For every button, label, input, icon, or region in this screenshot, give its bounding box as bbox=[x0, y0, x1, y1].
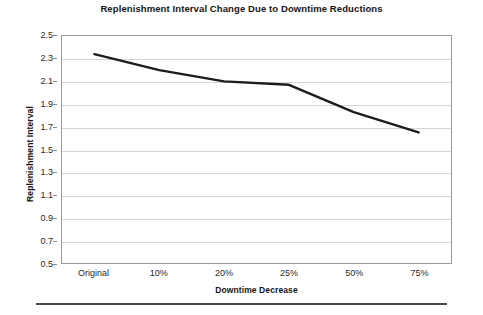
chart-figure: Replenishment Interval Change Due to Dow… bbox=[0, 0, 483, 315]
y-tick-label: 1.9 bbox=[0, 99, 57, 109]
x-tick-label: 50% bbox=[345, 268, 363, 278]
y-tick-label: 1.1 bbox=[0, 190, 57, 200]
series-polyline bbox=[94, 54, 418, 132]
plot-area bbox=[61, 35, 452, 264]
y-tick-mark bbox=[53, 104, 57, 105]
y-tick-mark bbox=[53, 218, 57, 219]
y-tick-label: 1.7 bbox=[0, 122, 57, 132]
y-tick-label: 0.7 bbox=[0, 236, 57, 246]
y-tick-mark bbox=[53, 241, 57, 242]
footer-rule bbox=[36, 303, 447, 305]
y-tick-mark bbox=[53, 150, 57, 151]
y-tick-mark bbox=[53, 264, 57, 265]
x-axis-tick-labels: Original10%20%25%50%75% bbox=[61, 268, 452, 282]
y-tick-mark bbox=[53, 35, 57, 36]
x-tick-label: 75% bbox=[410, 268, 428, 278]
x-tick-label: 25% bbox=[280, 268, 298, 278]
y-tick-mark bbox=[53, 172, 57, 173]
y-tick-label: 2.5 bbox=[0, 30, 57, 40]
x-tick-label: 20% bbox=[215, 268, 233, 278]
y-tick-mark bbox=[53, 127, 57, 128]
y-tick-mark bbox=[53, 58, 57, 59]
y-tick-label: 1.5 bbox=[0, 145, 57, 155]
y-tick-mark bbox=[53, 195, 57, 196]
line-series bbox=[62, 36, 451, 263]
y-tick-mark bbox=[53, 81, 57, 82]
y-tick-label: 2.3 bbox=[0, 53, 57, 63]
chart-title: Replenishment Interval Change Due to Dow… bbox=[0, 3, 483, 14]
y-tick-label: 1.3 bbox=[0, 167, 57, 177]
y-tick-label: 2.1 bbox=[0, 76, 57, 86]
x-tick-label: Original bbox=[78, 268, 109, 278]
x-axis-title: Downtime Decrease bbox=[61, 285, 452, 295]
x-tick-label: 10% bbox=[150, 268, 168, 278]
y-tick-label: 0.5 bbox=[0, 259, 57, 269]
y-tick-label: 0.9 bbox=[0, 213, 57, 223]
y-axis-tick-labels: 2.52.32.11.91.71.51.31.10.90.70.5 bbox=[0, 35, 57, 264]
